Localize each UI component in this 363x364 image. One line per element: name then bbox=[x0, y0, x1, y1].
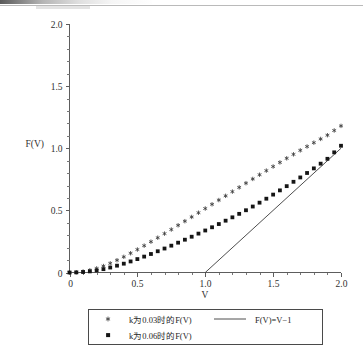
square-point bbox=[210, 225, 214, 229]
square-point bbox=[197, 232, 201, 236]
y-tick-label: 2.0 bbox=[51, 20, 63, 30]
square-point bbox=[203, 229, 207, 233]
plot-canvas: 00.51.01.52.0 00.51.01.52.0 F(V) V k为0.0… bbox=[0, 0, 363, 364]
square-point bbox=[135, 257, 139, 261]
square-point bbox=[108, 266, 112, 270]
square-point bbox=[81, 270, 85, 274]
square-point bbox=[339, 144, 343, 148]
square-point bbox=[326, 157, 330, 161]
y-tick-label: 0 bbox=[58, 269, 63, 279]
square-point bbox=[88, 269, 92, 273]
square-point bbox=[292, 180, 296, 184]
square-point bbox=[231, 215, 235, 219]
chart-figure: 00.51.01.52.0 00.51.01.52.0 F(V) V k为0.0… bbox=[0, 0, 363, 364]
x-axis-tick-labels: 00.51.01.52.0 bbox=[68, 279, 348, 289]
series-star-k-0-03 bbox=[68, 124, 343, 275]
square-point bbox=[258, 201, 262, 205]
x-tick-label: 1.0 bbox=[200, 279, 212, 289]
square-point bbox=[217, 222, 221, 226]
y-tick-label: 1.5 bbox=[51, 82, 63, 92]
square-point bbox=[264, 197, 268, 201]
square-point bbox=[190, 235, 194, 239]
square-point bbox=[142, 255, 146, 259]
square-point bbox=[319, 162, 323, 166]
y-axis-title: F(V) bbox=[26, 139, 44, 150]
square-point bbox=[74, 270, 78, 274]
square-point bbox=[285, 184, 289, 188]
square-point bbox=[237, 212, 241, 216]
square-point bbox=[115, 264, 119, 268]
x-axis-title: V bbox=[202, 290, 209, 300]
square-point bbox=[176, 241, 180, 245]
square-point bbox=[102, 267, 106, 271]
x-tick-label: 0.5 bbox=[132, 279, 144, 289]
square-point bbox=[169, 244, 173, 248]
square-point bbox=[68, 271, 72, 275]
square-point bbox=[122, 262, 126, 266]
square-point bbox=[163, 247, 167, 251]
square-point bbox=[271, 193, 275, 197]
x-tick-label: 2.0 bbox=[336, 279, 348, 289]
square-point bbox=[278, 188, 282, 192]
square-point bbox=[149, 252, 153, 256]
y-axis-tick-labels: 00.51.01.52.0 bbox=[51, 20, 63, 279]
square-point bbox=[129, 260, 133, 264]
y-tick-label: 0.5 bbox=[51, 206, 63, 216]
legend-square-marker bbox=[106, 333, 110, 337]
square-point bbox=[305, 171, 309, 175]
square-point bbox=[224, 219, 228, 223]
legend-label-line: F(V)=V−1 bbox=[255, 315, 292, 325]
x-tick-label: 0 bbox=[68, 279, 73, 289]
square-point bbox=[244, 208, 248, 212]
y-tick-label: 1.0 bbox=[51, 144, 63, 154]
square-point bbox=[95, 268, 99, 272]
legend-label-star: k为0.03时的F(V) bbox=[129, 315, 192, 325]
square-point bbox=[156, 249, 160, 253]
square-point bbox=[332, 150, 336, 154]
square-point bbox=[251, 205, 255, 209]
x-tick-label: 1.5 bbox=[268, 279, 280, 289]
square-point bbox=[298, 176, 302, 180]
square-point bbox=[183, 238, 187, 242]
square-point bbox=[312, 166, 316, 170]
legend-label-square: k为0.06时的F(V) bbox=[129, 331, 192, 341]
